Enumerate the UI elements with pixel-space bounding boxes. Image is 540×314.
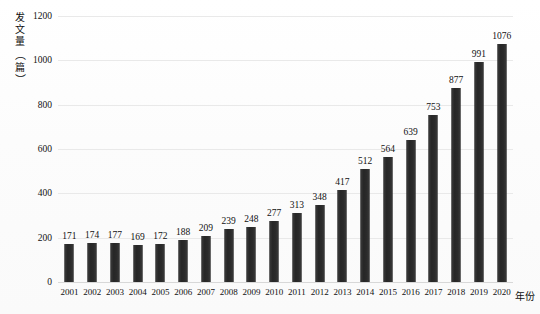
bar-value-label: 209 bbox=[199, 223, 213, 233]
x-tick-label: 2001 bbox=[60, 287, 78, 297]
bar[interactable] bbox=[179, 240, 188, 282]
x-tick-label: 2014 bbox=[356, 287, 374, 297]
bar[interactable] bbox=[383, 157, 392, 282]
bar-slot: 2772010 bbox=[263, 16, 286, 282]
bar-slot: 5642015 bbox=[377, 16, 400, 282]
bar-value-label: 512 bbox=[358, 156, 372, 166]
y-axis-title-char: 发 bbox=[12, 12, 28, 24]
y-tick-label: 0 bbox=[47, 277, 52, 287]
bar-value-label: 564 bbox=[381, 144, 395, 154]
x-tick-label: 2016 bbox=[402, 287, 420, 297]
bar[interactable] bbox=[201, 236, 210, 282]
bar[interactable] bbox=[270, 221, 279, 282]
bar-value-label: 248 bbox=[244, 214, 258, 224]
x-tick-label: 2020 bbox=[493, 287, 511, 297]
bar-slot: 1742002 bbox=[81, 16, 104, 282]
bar[interactable] bbox=[247, 227, 256, 282]
bar-slot: 1722005 bbox=[149, 16, 172, 282]
x-tick-label: 2011 bbox=[288, 287, 306, 297]
bar-slot: 9912019 bbox=[468, 16, 491, 282]
bars-group: 1712001174200217720031692004172200518820… bbox=[58, 16, 513, 282]
axis-baseline bbox=[58, 282, 513, 283]
bar-value-label: 174 bbox=[85, 230, 99, 240]
bar-slot: 1712001 bbox=[58, 16, 81, 282]
bar-slot: 2392008 bbox=[217, 16, 240, 282]
bar[interactable] bbox=[474, 62, 483, 282]
y-tick-label: 1000 bbox=[33, 55, 52, 65]
bar[interactable] bbox=[406, 140, 415, 282]
y-axis-title-char: 量 bbox=[12, 36, 28, 48]
bar-slot: 3132011 bbox=[286, 16, 309, 282]
x-tick-label: 2017 bbox=[424, 287, 442, 297]
y-axis-title-char: ︶ bbox=[12, 74, 28, 87]
bar[interactable] bbox=[361, 169, 370, 282]
plot-area: 020040060080010001200 171200117420021772… bbox=[58, 16, 513, 282]
bar[interactable] bbox=[292, 213, 301, 282]
x-tick-label: 2003 bbox=[106, 287, 124, 297]
y-axis-title-char: 文 bbox=[12, 24, 28, 36]
x-tick-label: 2012 bbox=[311, 287, 329, 297]
bar-value-label: 171 bbox=[62, 231, 76, 241]
x-tick-label: 2006 bbox=[174, 287, 192, 297]
bar-value-label: 177 bbox=[108, 230, 122, 240]
bar[interactable] bbox=[224, 229, 233, 282]
bar-slot: 1772003 bbox=[104, 16, 127, 282]
bar-value-label: 313 bbox=[290, 200, 304, 210]
bar-chart-figure: 发文量︵篇︶ 020040060080010001200 17120011742… bbox=[0, 0, 540, 314]
bar-value-label: 417 bbox=[335, 177, 349, 187]
bar-value-label: 753 bbox=[426, 102, 440, 112]
y-axis-title: 发文量︵篇︶ bbox=[12, 12, 28, 87]
bar-slot: 8772018 bbox=[445, 16, 468, 282]
x-axis-title: 年份 bbox=[515, 288, 535, 303]
x-tick-label: 2005 bbox=[151, 287, 169, 297]
y-tick-label: 1200 bbox=[33, 11, 52, 21]
y-tick-label: 200 bbox=[38, 233, 52, 243]
bar[interactable] bbox=[452, 88, 461, 282]
bar[interactable] bbox=[315, 205, 324, 282]
x-tick-label: 2018 bbox=[447, 287, 465, 297]
x-tick-label: 2002 bbox=[83, 287, 101, 297]
bar-slot: 10762020 bbox=[490, 16, 513, 282]
x-tick-label: 2008 bbox=[220, 287, 238, 297]
x-tick-label: 2004 bbox=[129, 287, 147, 297]
bar-value-label: 877 bbox=[449, 75, 463, 85]
bar-value-label: 169 bbox=[131, 232, 145, 242]
bar[interactable] bbox=[88, 243, 97, 282]
y-tick-label: 400 bbox=[38, 188, 52, 198]
bar-value-label: 991 bbox=[472, 49, 486, 59]
bar[interactable] bbox=[338, 190, 347, 282]
x-tick-label: 2019 bbox=[470, 287, 488, 297]
bar-value-label: 1076 bbox=[492, 31, 511, 41]
bar-value-label: 172 bbox=[153, 231, 167, 241]
bar-slot: 3482012 bbox=[308, 16, 331, 282]
bar-slot: 2092007 bbox=[195, 16, 218, 282]
y-axis-title-char: 篇 bbox=[12, 62, 28, 74]
x-tick-label: 2007 bbox=[197, 287, 215, 297]
bar-slot: 5122014 bbox=[354, 16, 377, 282]
x-tick-label: 2015 bbox=[379, 287, 397, 297]
bar-value-label: 348 bbox=[313, 192, 327, 202]
bar-slot: 1692004 bbox=[126, 16, 149, 282]
bar-slot: 2482009 bbox=[240, 16, 263, 282]
x-tick-label: 2009 bbox=[242, 287, 260, 297]
bar[interactable] bbox=[65, 244, 74, 282]
bar-slot: 1882006 bbox=[172, 16, 195, 282]
bar-slot: 7532017 bbox=[422, 16, 445, 282]
bar-value-label: 188 bbox=[176, 227, 190, 237]
bar-value-label: 239 bbox=[222, 216, 236, 226]
bar-value-label: 639 bbox=[404, 127, 418, 137]
bar[interactable] bbox=[156, 244, 165, 282]
x-tick-label: 2013 bbox=[333, 287, 351, 297]
bar-slot: 6392016 bbox=[399, 16, 422, 282]
x-tick-label: 2010 bbox=[265, 287, 283, 297]
bar[interactable] bbox=[497, 44, 506, 283]
bar[interactable] bbox=[110, 243, 119, 282]
y-tick-label: 800 bbox=[38, 100, 52, 110]
bar[interactable] bbox=[133, 245, 142, 282]
bar[interactable] bbox=[429, 115, 438, 282]
y-axis-title-char: ︵ bbox=[12, 49, 28, 62]
bar-slot: 4172013 bbox=[331, 16, 354, 282]
y-tick-label: 600 bbox=[38, 144, 52, 154]
bar-value-label: 277 bbox=[267, 208, 281, 218]
